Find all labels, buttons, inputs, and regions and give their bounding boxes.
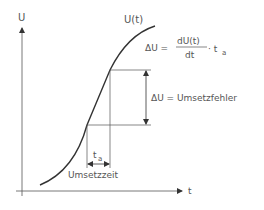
curve-label: U(t) xyxy=(124,14,143,25)
time-caption: Umsetzzeit xyxy=(68,170,119,180)
ta-label-sub: a xyxy=(98,155,102,163)
diagram: U t U(t) ΔU = dU(t) dt · t a ΔU = Umsetz… xyxy=(0,0,264,210)
x-axis-label: t xyxy=(188,186,192,196)
formula-rhs-sub: a xyxy=(222,49,226,57)
y-axis-label: U xyxy=(18,12,25,23)
formula: ΔU = dU(t) dt · t a xyxy=(145,36,226,60)
ta-label: t xyxy=(93,150,97,160)
formula-rhs: · t xyxy=(208,44,218,54)
formula-denominator: dt xyxy=(185,50,195,60)
formula-numerator: dU(t) xyxy=(177,36,200,46)
delta-u-label: ΔU = Umsetzfehler xyxy=(151,93,237,103)
formula-lhs: ΔU = xyxy=(145,43,168,53)
